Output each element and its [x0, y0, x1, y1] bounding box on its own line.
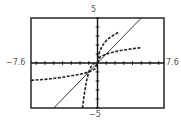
x-max-label: 7.6: [166, 59, 179, 67]
y-max-label: 5: [91, 6, 96, 14]
graph-window: [0, 0, 181, 123]
x-min-label: −7.6: [6, 59, 25, 67]
y-min-label: −5: [89, 111, 101, 119]
